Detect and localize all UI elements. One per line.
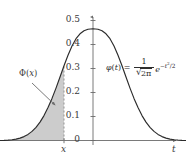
phi-cdf-annotation: Φ(x) [19, 69, 37, 78]
normal-distribution-figure: 0.5 0.4 0.3 0.2 0.1 0 x t Φ(x) φ(t) = 1√… [0, 0, 186, 167]
y-tick-label-0.3: 0.3 [60, 63, 80, 72]
formula-numerator: 1 [134, 58, 154, 66]
formula-equals: = [124, 63, 131, 72]
sqrt-group: √2π [136, 68, 152, 78]
phi-close-paren: ) [34, 68, 37, 78]
y-tick-label-0.5: 0.5 [60, 15, 80, 24]
y-tick-label-0.1: 0.1 [60, 111, 80, 120]
y-tick-label-0.2: 0.2 [60, 87, 80, 96]
formula-denominator: √2π [134, 68, 154, 78]
exponent-divisor: /2 [170, 63, 176, 69]
formula-exponent: −t2/2 [160, 63, 175, 69]
formula-fraction: 1√2π [134, 58, 154, 79]
phi-annotation-arrow [32, 83, 55, 105]
plot-canvas [0, 0, 186, 167]
formula-close-paren: ) [118, 63, 121, 72]
x-axis-name-label: t [172, 145, 176, 154]
x-tick-label: x [61, 145, 66, 154]
density-formula: φ(t) = 1√2πe−t2/2 [106, 58, 175, 79]
y-tick-label-0.4: 0.4 [60, 39, 80, 48]
y-tick-label-0: 0 [60, 135, 80, 144]
sqrt-icon: √ [136, 68, 142, 77]
phi-symbol: Φ [19, 68, 26, 78]
formula-exponential: e−t2/2 [155, 64, 175, 74]
